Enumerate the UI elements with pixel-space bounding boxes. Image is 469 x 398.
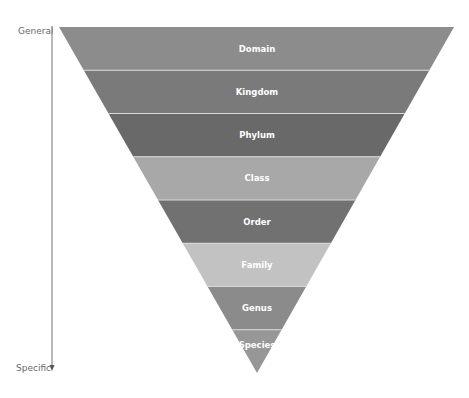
band-label: Kingdom <box>236 87 279 97</box>
pyramid-level-genus: Genus <box>208 287 307 330</box>
band-label: Genus <box>242 303 272 313</box>
taxonomy-pyramid: DomainKingdomPhylumClassOrderFamilyGenus… <box>0 0 469 398</box>
band-shape <box>232 330 281 373</box>
band-label: Order <box>243 217 271 227</box>
pyramid-level-class: Class <box>133 157 380 200</box>
pyramid-level-kingdom: Kingdom <box>84 70 430 113</box>
band-label: Domain <box>239 44 275 54</box>
pyramid-level-species: Species <box>232 330 281 373</box>
pyramid-level-order: Order <box>158 200 356 243</box>
pyramid-bands: DomainKingdomPhylumClassOrderFamilyGenus… <box>59 27 454 373</box>
generality-axis <box>50 26 55 371</box>
pyramid-level-domain: Domain <box>59 27 454 70</box>
band-label: Family <box>241 260 273 270</box>
pyramid-level-family: Family <box>183 243 331 286</box>
band-label: Species <box>239 340 276 350</box>
band-label: Phylum <box>239 130 275 140</box>
arrow-down-icon <box>50 365 55 371</box>
pyramid-level-phylum: Phylum <box>109 114 405 157</box>
band-label: Class <box>244 173 269 183</box>
